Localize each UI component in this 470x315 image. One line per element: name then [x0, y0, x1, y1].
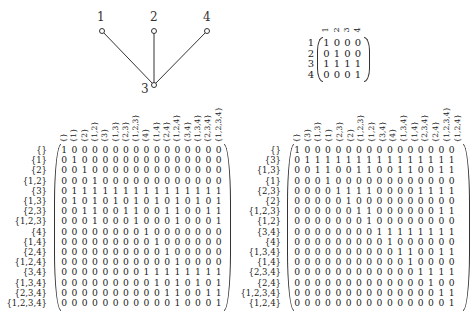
left-matrix-row-label: {1} — [0, 155, 47, 165]
matrix-cell: 1 — [446, 298, 456, 308]
matrix-cell: 0 — [302, 216, 312, 226]
right-matrix-col-label: {1,2} — [367, 121, 375, 142]
matrix-cell: 0 — [395, 298, 405, 308]
matrix-cell: 0 — [354, 216, 364, 226]
matrix-cell: 0 — [131, 267, 141, 277]
left-matrix-col-label: {2,3} — [121, 121, 129, 142]
matrix-cell: 0 — [172, 165, 182, 175]
left-matrix-row-label: {2} — [0, 165, 47, 175]
matrix-cell: 0 — [405, 298, 415, 308]
matrix-cell: 0 — [193, 298, 203, 308]
small-matrix-cell: 0 — [343, 49, 352, 59]
matrix-cell: 0 — [333, 216, 343, 226]
matrix-cell: 1 — [405, 165, 415, 175]
matrix-cell: 0 — [121, 267, 131, 277]
matrix-cell: 0 — [69, 216, 79, 226]
matrix-cell: 0 — [302, 298, 312, 308]
matrix-cell: 1 — [213, 216, 223, 226]
matrix-cell: 1 — [436, 165, 446, 175]
matrix-row: 0010000000000000 — [59, 165, 224, 175]
matrix-cell: 1 — [364, 165, 374, 175]
left-matrix-row-label: {1,3} — [0, 196, 47, 206]
right-matrix-col-label: {3,4} — [378, 121, 386, 142]
matrix-cell: 1 — [152, 267, 162, 277]
matrix-cell: 0 — [80, 216, 90, 226]
matrix-cell: 1 — [90, 216, 100, 226]
right-matrix-row-label: {1,2,4} — [240, 298, 281, 308]
matrix-cell: 0 — [110, 216, 120, 226]
right-paren — [463, 144, 470, 311]
matrix-cell: 0 — [426, 216, 436, 226]
matrix-cell: 0 — [343, 298, 353, 308]
matrix-cell: 0 — [385, 267, 395, 277]
right-matrix-row-label: {1,2,3,4} — [240, 288, 281, 298]
node-4 — [205, 29, 210, 34]
small-matrix: 123411000201003111140001 — [306, 26, 376, 78]
small-matrix-cell: 1 — [354, 70, 363, 80]
matrix-cell: 1 — [131, 216, 141, 226]
small-matrix-cell: 1 — [333, 49, 342, 59]
matrix-cell: 1 — [426, 267, 436, 277]
matrix-cell: 0 — [385, 165, 395, 175]
matrix-cell: 1 — [213, 267, 223, 277]
matrix-cell: 0 — [313, 267, 323, 277]
node-1 — [100, 29, 105, 34]
node-label-2: 2 — [150, 10, 158, 24]
matrix-cell: 0 — [374, 165, 384, 175]
small-matrix-row-label: 2 — [306, 49, 314, 59]
small-matrix-cell: 0 — [322, 49, 331, 59]
matrix-cell: 0 — [323, 216, 333, 226]
matrix-cell: 0 — [354, 267, 364, 277]
matrix-cell: 0 — [69, 165, 79, 175]
matrix-cell: 0 — [333, 165, 343, 175]
matrix-cell: 0 — [323, 267, 333, 277]
small-matrix-row-label: 4 — [306, 70, 314, 80]
matrix-cell: 0 — [100, 216, 110, 226]
matrix-cell: 0 — [416, 298, 426, 308]
matrix-cell: 0 — [100, 165, 110, 175]
matrix-cell: 1 — [213, 298, 223, 308]
matrix-cell: 0 — [302, 165, 312, 175]
matrix-cell: 0 — [416, 216, 426, 226]
small-matrix-cell: 1 — [322, 59, 331, 69]
small-matrix-cell: 0 — [333, 38, 342, 48]
matrix-cell: 0 — [152, 298, 162, 308]
small-matrix-cell: 0 — [354, 49, 363, 59]
matrix-cell: 0 — [162, 165, 172, 175]
node-2 — [152, 29, 157, 34]
matrix-cell: 0 — [395, 216, 405, 226]
small-matrix-row-label: 3 — [306, 59, 314, 69]
right-matrix-row-label: {2,3} — [240, 186, 281, 196]
right-matrix-col-label: {1,2,3} — [357, 114, 365, 143]
right-matrix-row-label: {2} — [240, 196, 281, 206]
matrix-cell: 0 — [313, 216, 323, 226]
left-matrix-col-label: {4} — [142, 128, 150, 142]
matrix-cell: 0 — [333, 267, 343, 277]
left-matrix-row-label: {1,2,4} — [0, 257, 47, 267]
right-matrix-row-label: {3} — [240, 155, 281, 165]
small-matrix-cell: 1 — [354, 59, 363, 69]
edge-4-3 — [154, 31, 207, 85]
matrix-cell: 1 — [364, 216, 374, 226]
left-matrix-row-label: {1,4} — [0, 237, 47, 247]
left-matrix-row-label: {1,2,3} — [0, 216, 47, 226]
matrix-cell: 1 — [183, 267, 193, 277]
right-matrix-row-label: {1,3} — [240, 165, 281, 175]
right-matrix-row-label: {1} — [240, 176, 281, 186]
small-matrix-cell: 0 — [354, 38, 363, 48]
matrix-cell: 0 — [193, 165, 203, 175]
right-matrix-row-label: {2,4} — [240, 278, 281, 288]
left-matrix-col-label: {1,2} — [90, 121, 98, 142]
matrix-cell: 0 — [90, 165, 100, 175]
matrix-cell: 0 — [436, 216, 446, 226]
left-paren — [287, 144, 294, 311]
matrix-cell: 0 — [110, 165, 120, 175]
matrix-cell: 1 — [395, 165, 405, 175]
small-matrix-col-label: 2 — [333, 26, 341, 34]
left-matrix-col-label: {2} — [80, 128, 88, 142]
small-matrix-row-label: 1 — [306, 38, 314, 48]
matrix-cell: 0 — [374, 216, 384, 226]
matrix-cell: 0 — [141, 165, 151, 175]
right-matrix-col-label: {1,4} — [410, 121, 418, 142]
small-matrix-cell: 1 — [322, 38, 331, 48]
